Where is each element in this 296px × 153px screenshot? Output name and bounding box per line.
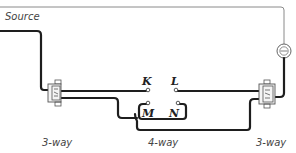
terminal-l xyxy=(174,88,178,92)
traveler-left-to-m xyxy=(60,98,137,118)
label-m: M xyxy=(141,107,155,120)
left-3way-switch-icon xyxy=(48,80,61,106)
right-3way-switch-icon xyxy=(259,80,275,108)
right-switch-label: 3-way xyxy=(256,137,287,148)
label-k: K xyxy=(141,75,152,88)
wiring-diagram: Source K L M N 3-way 4-way 3-way xyxy=(0,0,296,153)
terminal-k xyxy=(146,88,150,92)
terminal-m xyxy=(146,101,150,105)
lamp-icon xyxy=(277,44,291,58)
source-wire xyxy=(0,31,48,90)
lamp-switch-leg xyxy=(275,58,284,97)
label-n: N xyxy=(168,107,180,120)
neutral-wire xyxy=(0,7,284,44)
center-switch-label: 4-way xyxy=(148,137,179,148)
label-l: L xyxy=(170,75,179,88)
terminal-n xyxy=(176,101,180,105)
source-label: Source xyxy=(5,11,40,22)
left-switch-label: 3-way xyxy=(42,137,73,148)
